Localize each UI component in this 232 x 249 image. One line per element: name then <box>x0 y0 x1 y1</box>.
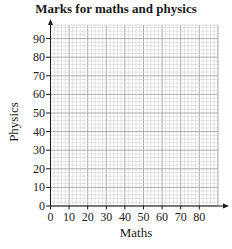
x-tick-label: 0 <box>48 210 54 224</box>
y-tick-label: 40 <box>33 125 45 139</box>
x-tick-label: 10 <box>63 210 75 224</box>
chart-plot-area: 010203040506070809001020304050607080 <box>0 0 232 249</box>
y-tick-label: 10 <box>33 180 45 194</box>
x-tick-label: 40 <box>119 210 131 224</box>
x-tick-label: 70 <box>175 210 187 224</box>
y-tick-label: 0 <box>39 199 45 213</box>
y-tick-label: 60 <box>33 87 45 101</box>
x-tick-label: 60 <box>156 210 168 224</box>
y-tick-label: 20 <box>33 162 45 176</box>
x-tick-label: 80 <box>193 210 205 224</box>
y-tick-label: 70 <box>33 69 45 83</box>
y-tick-label: 90 <box>33 32 45 46</box>
x-tick-label: 20 <box>82 210 94 224</box>
y-tick-label: 80 <box>33 50 45 64</box>
x-tick-label: 30 <box>100 210 112 224</box>
y-axis-arrow-icon <box>48 19 53 25</box>
grid <box>50 25 218 206</box>
y-tick-label: 50 <box>33 106 45 120</box>
y-tick-label: 30 <box>33 143 45 157</box>
x-axis-arrow-icon <box>223 204 229 209</box>
x-tick-label: 50 <box>138 210 150 224</box>
